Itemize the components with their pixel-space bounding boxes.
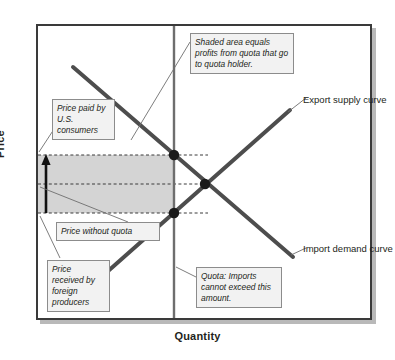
figure-root: Price Quantity Shaded area equals profit… — [0, 0, 395, 360]
label-export-supply-curve: Export supply curve — [303, 94, 386, 106]
x-axis-title: Quantity — [0, 330, 395, 342]
label-import-demand-curve: Import demand curve — [303, 243, 393, 255]
callout-price-paid: Price paid by U.S. consumers — [52, 99, 115, 140]
leader-line-quota — [176, 267, 196, 277]
callout-quota-limit: Quota: Imports cannot exceed this amount… — [196, 267, 282, 308]
marker-price-received-by-foreign-producers — [169, 208, 179, 218]
y-axis-title: Price — [0, 130, 6, 158]
leader-line-shaded-area — [131, 42, 190, 140]
marker-price-paid-by-us-consumers — [169, 150, 179, 160]
callout-shaded-area: Shaded area equals profits from quota th… — [190, 33, 294, 74]
callout-price-received: Price received by foreign producers — [47, 260, 110, 312]
callout-price-without-quota: Price without quota — [56, 222, 160, 241]
marker-free-trade-equilibrium — [200, 179, 210, 189]
